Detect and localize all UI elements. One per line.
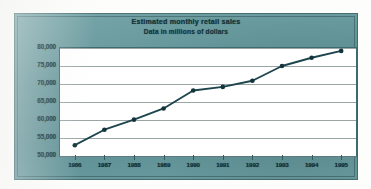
x-tick-1987 (104, 155, 105, 160)
y-tick-label-55000: 55,000 (37, 133, 56, 140)
x-tick-1988 (134, 155, 135, 160)
x-tick-1991 (223, 155, 224, 160)
y-tick-label-75000: 75,000 (37, 61, 56, 68)
y-tick-label-50000: 50,000 (37, 151, 56, 158)
plot-area (60, 48, 356, 156)
series-line (75, 51, 341, 145)
y-tick-label-60000: 60,000 (37, 115, 56, 122)
y-tick-label-70000: 70,000 (37, 79, 56, 86)
chart-title: Estimated monthly retail sales (14, 17, 358, 27)
x-tick-1989 (164, 155, 165, 160)
data-point-1991 (221, 85, 226, 90)
data-point-1994 (309, 55, 314, 60)
data-point-1990 (191, 88, 196, 93)
x-tick-label-1989: 1989 (157, 161, 170, 168)
x-tick-label-1990: 1990 (187, 161, 200, 168)
x-tick-1992 (252, 155, 253, 160)
x-tick-label-1994: 1994 (305, 161, 318, 168)
chart-panel: Estimated monthly retail sales Data in m… (14, 13, 358, 180)
x-tick-label-1986: 1986 (68, 161, 81, 168)
x-tick-1994 (312, 155, 313, 160)
data-point-1989 (161, 106, 166, 111)
x-tick-1993 (282, 155, 283, 160)
x-tick-label-1987: 1987 (98, 161, 111, 168)
x-tick-1990 (193, 155, 194, 160)
x-tick-label-1992: 1992 (246, 161, 259, 168)
plot-area-frame (59, 47, 357, 157)
series-line-estimated-monthly-retail-sales (60, 48, 356, 156)
data-point-1988 (132, 117, 137, 122)
x-tick-label-1991: 1991 (216, 161, 229, 168)
y-tick-label-65000: 65,000 (37, 97, 56, 104)
data-point-1992 (250, 78, 255, 83)
y-tick-label-80000: 80,000 (37, 43, 56, 50)
x-tick-label-1988: 1988 (127, 161, 140, 168)
chart-figure: Estimated monthly retail sales Data in m… (0, 0, 371, 189)
x-tick-label-1993: 1993 (275, 161, 288, 168)
data-point-1986 (73, 143, 78, 148)
x-tick-label-1995: 1995 (335, 161, 348, 168)
data-point-1987 (102, 127, 107, 132)
data-point-1995 (339, 49, 344, 54)
chart-subtitle: Data in millions of dollars (14, 27, 358, 37)
x-tick-1995 (341, 155, 342, 160)
chart-title-block: Estimated monthly retail sales Data in m… (14, 17, 358, 37)
x-axis: 1986198719881989199019911992199319941995 (59, 155, 357, 179)
data-point-1993 (280, 64, 285, 69)
y-axis-tick-labels: 80,00075,00070,00065,00060,00055,00050,0… (14, 13, 58, 180)
x-tick-1986 (75, 155, 76, 160)
